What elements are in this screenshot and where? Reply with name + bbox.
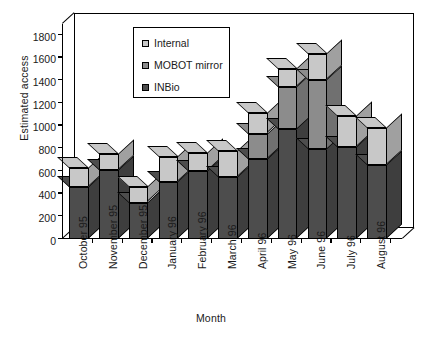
bar-column[interactable] xyxy=(278,24,298,239)
y-tick-label: 200 xyxy=(38,212,56,224)
x-tick-mark xyxy=(151,239,152,243)
x-tick-label: August 96 xyxy=(375,221,387,269)
y-tick-label: 1600 xyxy=(33,53,56,65)
x-tick-mark xyxy=(390,239,391,243)
y-tick-label: 0 xyxy=(50,235,56,247)
bar-column[interactable] xyxy=(337,24,357,239)
bar-segment[interactable] xyxy=(278,87,298,130)
bar-segment-face xyxy=(129,187,149,202)
bar-segment[interactable] xyxy=(248,159,268,239)
y-axis-line xyxy=(62,24,63,239)
chart-legend: InternalMOBOT mirrorINBio xyxy=(133,27,230,98)
legend-label: MOBOT mirror xyxy=(154,60,223,71)
x-tick-mark xyxy=(301,239,302,243)
bar-segment-face xyxy=(337,116,357,147)
bar-segment[interactable] xyxy=(99,154,119,170)
plot-area: 020040060080010001200140016001800 Octobe… xyxy=(62,24,402,239)
depth-edge-top-left xyxy=(62,12,75,24)
y-tick-label: 600 xyxy=(38,167,56,179)
bar-segment-face xyxy=(218,151,238,177)
x-tick-mark xyxy=(92,239,93,243)
y-axis-title: Estimated access xyxy=(18,28,30,168)
bar-segment-face xyxy=(99,154,119,170)
x-tick-mark xyxy=(181,239,182,243)
x-tick-mark xyxy=(360,239,361,243)
x-axis-title: Month xyxy=(0,312,422,324)
x-axis-line xyxy=(62,238,402,239)
x-tick-mark xyxy=(271,239,272,243)
legend-label: INBio xyxy=(154,82,180,93)
y-tick-label: 800 xyxy=(38,144,56,156)
bar-segment-face xyxy=(308,54,328,80)
bar-segment[interactable] xyxy=(218,151,238,177)
bar-segment[interactable] xyxy=(248,134,268,159)
x-tick-mark xyxy=(122,239,123,243)
bar-segment[interactable] xyxy=(278,129,298,239)
bar-segment-side xyxy=(386,150,402,239)
bar-segment[interactable] xyxy=(129,187,149,202)
legend-item[interactable]: Internal xyxy=(142,37,189,50)
bar-segment-face xyxy=(248,113,268,133)
x-tick-mark xyxy=(211,239,212,243)
bar-segment[interactable] xyxy=(337,147,357,239)
x-tick-label: February 96 xyxy=(196,211,208,269)
bar-segment-face xyxy=(188,153,208,171)
estimated-access-chart: Estimated access Month 02004006008001000… xyxy=(0,0,422,339)
bar-segment[interactable] xyxy=(308,54,328,80)
bar-segment-face xyxy=(278,69,298,87)
y-tick-label: 1000 xyxy=(33,121,56,133)
bar-segment[interactable] xyxy=(159,157,179,182)
bar-segment-face xyxy=(278,129,298,239)
bar-segment[interactable] xyxy=(367,128,387,165)
bar-segment-face xyxy=(248,134,268,159)
bar-segment-face xyxy=(159,157,179,182)
bar-segment[interactable] xyxy=(308,80,328,150)
bar-segment[interactable] xyxy=(69,168,89,187)
bar-segment-face xyxy=(308,80,328,150)
x-tick-label: March 96 xyxy=(226,224,238,269)
bar-segment-face xyxy=(69,168,89,187)
depth-edge-bottom-right xyxy=(402,227,415,239)
bar-column[interactable] xyxy=(248,24,268,239)
y-tick-label: 1800 xyxy=(33,31,56,43)
y-tick-label: 1400 xyxy=(33,76,56,88)
bar-segment-face xyxy=(308,149,328,239)
bar-segment-face xyxy=(337,147,357,239)
y-tick-label: 1200 xyxy=(33,99,56,111)
bar-segment[interactable] xyxy=(278,69,298,87)
legend-swatch xyxy=(142,62,149,69)
legend-swatch xyxy=(142,84,149,91)
bar-column[interactable] xyxy=(308,24,328,239)
x-tick-label: May 96 xyxy=(286,234,298,269)
bar-segment[interactable] xyxy=(337,116,357,147)
bar-column[interactable] xyxy=(367,24,387,239)
x-tick-mark xyxy=(330,239,331,243)
bar-segment[interactable] xyxy=(188,153,208,171)
y-tick-label: 400 xyxy=(38,189,56,201)
x-tick-label: January 96 xyxy=(166,216,178,269)
x-tick-label: July 96 xyxy=(345,235,357,269)
legend-label: Internal xyxy=(154,38,189,49)
bar-segment[interactable] xyxy=(248,113,268,133)
legend-item[interactable]: INBio xyxy=(142,81,180,94)
bar-segment[interactable] xyxy=(308,149,328,239)
x-tick-mark xyxy=(241,239,242,243)
bar-segment-face xyxy=(248,159,268,239)
legend-swatch xyxy=(142,40,149,47)
x-tick-label: October 95 xyxy=(77,216,89,269)
bar-segment-face xyxy=(278,87,298,130)
bar-segment-face xyxy=(367,128,387,165)
legend-item[interactable]: MOBOT mirror xyxy=(142,59,223,72)
bar-column[interactable] xyxy=(69,24,89,239)
